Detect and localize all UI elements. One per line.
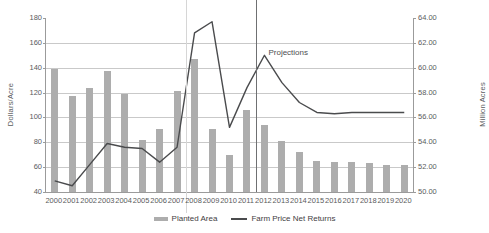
y-axis-left-tick-label: 40 [34, 188, 42, 196]
chart-container: Dollars/Acre Million Acres 4060801001201… [0, 0, 489, 233]
x-axis-labels: 2000200120022003200420052006200720082009… [45, 196, 414, 210]
y-axis-right-tick-label: 54.00 [418, 138, 437, 146]
y-axis-left-tick-label: 140 [29, 64, 42, 72]
legend-item-farm-price-net-returns: Farm Price Net Returns [231, 214, 335, 223]
x-axis-tick-label: 2001 [62, 196, 79, 205]
y-axis-left-title: Dollars/Acre [6, 60, 15, 150]
x-axis-tick-label: 2013 [272, 196, 289, 205]
y-axis-right-tick-label: 58.00 [418, 89, 437, 97]
x-axis-tick-label: 2004 [115, 196, 132, 205]
y-axis-right-title: Million Acres [478, 60, 487, 150]
x-axis-tick-label: 2008 [185, 196, 202, 205]
y-axis-left-tick-label: 100 [29, 113, 42, 121]
y-axis-right-tick-label: 62.00 [418, 39, 437, 47]
y-axis-right-tick-mark [413, 192, 416, 193]
x-axis-tick-label: 2002 [80, 196, 97, 205]
x-axis-tick-label: 2007 [167, 196, 184, 205]
y-axis-left-tick-mark [43, 192, 46, 193]
x-axis-tick-label: 2000 [45, 196, 62, 205]
legend-line-swatch-icon [231, 218, 247, 220]
legend-bar-swatch-icon [154, 217, 168, 221]
y-axis-right-tick-mark [413, 18, 416, 19]
y-axis-right-tick-mark [413, 167, 416, 168]
y-axis-left-tick-label: 120 [29, 89, 42, 97]
y-axis-right-tick-mark [413, 43, 416, 44]
y-axis-right-tick-label: 50.00 [418, 188, 437, 196]
plot-area: 406080100120140160180 50.0052.0054.0056.… [45, 18, 414, 193]
legend-item-planted-area: Planted Area [154, 214, 218, 223]
y-axis-right-tick-mark [413, 93, 416, 94]
x-axis-tick-label: 2020 [395, 196, 412, 205]
y-axis-right-tick-label: 60.00 [418, 64, 437, 72]
x-axis-tick-label: 2014 [290, 196, 307, 205]
x-axis-tick-label: 2005 [132, 196, 149, 205]
y-axis-right-tick-label: 56.00 [418, 113, 437, 121]
line-series-farm-price-net-returns [46, 18, 413, 192]
y-axis-right-tick-mark [413, 142, 416, 143]
y-axis-left-tick-label: 60 [34, 163, 42, 171]
x-axis-tick-label: 2003 [97, 196, 114, 205]
y-axis-left-tick-label: 160 [29, 39, 42, 47]
x-axis-tick-label: 2012 [255, 196, 272, 205]
x-axis-tick-label: 2006 [150, 196, 167, 205]
x-axis-tick-label: 2015 [307, 196, 324, 205]
line-path [55, 22, 405, 186]
x-axis-tick-label: 2009 [202, 196, 219, 205]
y-axis-left-tick-label: 80 [34, 138, 42, 146]
y-axis-right-tick-mark [413, 117, 416, 118]
projections-annotation: Projections [268, 48, 308, 57]
x-axis-tick-label: 2019 [377, 196, 394, 205]
y-axis-right-tick-label: 64.00 [418, 14, 437, 22]
y-axis-right-tick-mark [413, 68, 416, 69]
legend-label-planted-area: Planted Area [172, 214, 218, 223]
legend-label-farm-price-net-returns: Farm Price Net Returns [251, 214, 335, 223]
x-axis-tick-label: 2011 [237, 196, 254, 205]
x-axis-tick-label: 2010 [220, 196, 237, 205]
chart-legend: Planted Area Farm Price Net Returns [0, 214, 489, 223]
y-axis-right-tick-label: 52.00 [418, 163, 437, 171]
divider-line-light [186, 0, 187, 213]
y-axis-left-tick-label: 180 [29, 14, 42, 22]
x-axis-tick-label: 2016 [325, 196, 342, 205]
x-axis-tick-label: 2017 [342, 196, 359, 205]
x-axis-tick-label: 2018 [360, 196, 377, 205]
divider-line-projections [256, 0, 257, 192]
